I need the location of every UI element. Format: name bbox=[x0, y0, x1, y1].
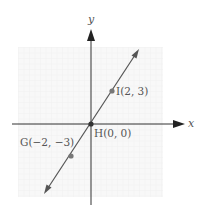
y-axis-label: y bbox=[88, 14, 94, 25]
point-I bbox=[109, 88, 114, 93]
x-axis-label: x bbox=[188, 118, 194, 129]
point-I-label: I(2, 3) bbox=[116, 86, 148, 97]
point-G-label: G(−2, −3) bbox=[20, 137, 74, 148]
y-axis-arrow-icon bbox=[87, 29, 95, 41]
point-H-label: H(0, 0) bbox=[94, 128, 131, 139]
plot-svg bbox=[0, 0, 201, 211]
point-H bbox=[88, 121, 93, 126]
point-G bbox=[68, 153, 73, 158]
coordinate-plane-figure: y x I(2, 3) H(0, 0) G(−2, −3) bbox=[0, 0, 201, 211]
x-axis-arrow-icon bbox=[173, 120, 185, 128]
